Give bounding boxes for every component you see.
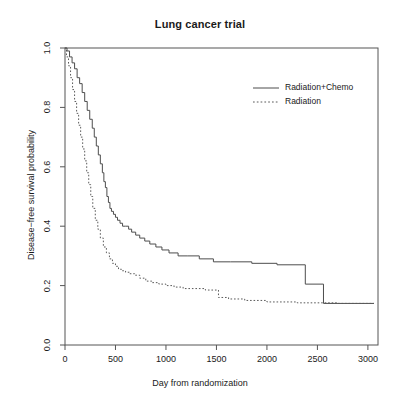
plot-frame xyxy=(65,48,378,345)
y-tick-label: 0.0 xyxy=(41,331,53,359)
x-tick-label: 1000 xyxy=(146,354,186,364)
x-tick-label: 3000 xyxy=(348,354,388,364)
y-tick-label: 1.0 xyxy=(41,34,53,62)
legend-label-2: Radiation xyxy=(285,96,321,106)
x-tick-label: 500 xyxy=(95,354,135,364)
x-tick-label: 2000 xyxy=(247,354,287,364)
y-tick-label: 0.2 xyxy=(41,272,53,300)
chart-figure: Lung cancer trial Disease−free survival … xyxy=(0,0,400,406)
x-tick-label: 2500 xyxy=(297,354,337,364)
chart-title: Lung cancer trial xyxy=(0,18,400,30)
y-tick-label: 0.8 xyxy=(41,93,53,121)
x-tick-label: 1500 xyxy=(196,354,236,364)
y-axis-label: Disease−free survival probability xyxy=(26,45,36,345)
y-tick-label: 0.6 xyxy=(41,153,53,181)
legend-label-1: Radiation+Chemo xyxy=(285,82,353,92)
y-tick-label: 0.4 xyxy=(41,212,53,240)
x-axis-label: Day from randomization xyxy=(0,378,400,388)
plot-area xyxy=(0,0,400,406)
